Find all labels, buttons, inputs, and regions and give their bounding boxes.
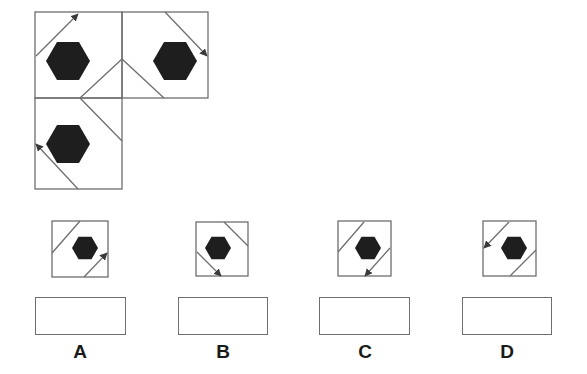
option-label-d: D <box>487 342 527 362</box>
option-label-b: B <box>203 342 243 362</box>
hexagon-icon <box>153 42 197 80</box>
option-figure-b[interactable] <box>196 222 248 276</box>
option-figure-d[interactable] <box>483 221 536 276</box>
hexagon-icon <box>46 125 90 163</box>
cell-top-left <box>35 12 122 98</box>
option-label-c: C <box>345 342 385 362</box>
answer-box-c[interactable] <box>319 297 410 335</box>
question-figure <box>35 12 208 189</box>
fold-line <box>80 98 122 141</box>
option-figure-c[interactable] <box>338 221 391 276</box>
answer-box-b[interactable] <box>178 297 268 335</box>
answer-box-d[interactable] <box>462 297 552 335</box>
cell-top-right <box>122 12 208 98</box>
answer-box-a[interactable] <box>35 297 126 335</box>
answer-options <box>52 221 536 277</box>
cell-bottom-left <box>35 98 122 189</box>
hexagon-icon <box>46 42 90 80</box>
option-label-a: A <box>60 342 100 362</box>
option-figure-a[interactable] <box>52 221 108 277</box>
